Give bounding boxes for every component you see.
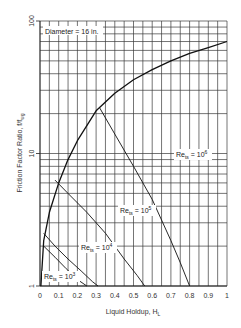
diameter-annotation: Diameter = 16 in. [43,26,103,35]
y-axis-title: Friction Factor Ratio, f/fwg [16,113,25,192]
x-tick-label: 1 [225,292,229,299]
y-tick-label: 100 [28,15,35,27]
x-tick-label: 0.2 [73,292,83,299]
x-tick-label: 0 [38,292,42,299]
x-tick-label: 0.7 [166,292,176,299]
x-axis-title: Liquid Holdup, HL [106,308,161,317]
x-tick-label: 0.3 [91,292,101,299]
friction-factor-chart: 00.10.20.30.40.50.60.70.80.91 110100 Ret… [0,0,241,328]
x-tick-label: 0.1 [54,292,64,299]
diameter-label: Diameter = 16 in. [45,28,99,35]
x-tick-label: 0.8 [185,292,195,299]
reynolds-curve [55,180,145,286]
x-tick-label: 0.9 [203,292,213,299]
x-tick-label: 0.5 [129,292,139,299]
y-tick-label: 10 [28,150,35,158]
y-tick-label: 1 [28,284,35,288]
y-tick-labels: 110100 [28,15,35,288]
x-tick-label: 0.6 [147,292,157,299]
x-tick-label: 0.4 [110,292,120,299]
reynolds-curve [100,108,190,286]
x-tick-labels: 00.10.20.30.40.50.60.70.80.91 [38,292,229,299]
